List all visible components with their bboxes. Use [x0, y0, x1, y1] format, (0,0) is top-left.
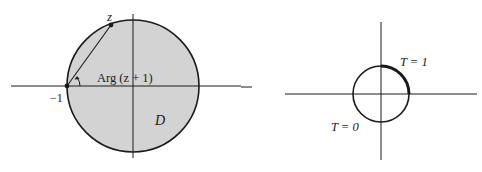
- label-minus-one: −1: [50, 92, 63, 104]
- left-figure: [11, 14, 241, 158]
- right-figure: [241, 22, 477, 160]
- label-arg-z-plus-1: Arg (z + 1): [97, 72, 153, 85]
- point-minus-one: [65, 84, 70, 89]
- thick-arc-t0-to-t1: [381, 66, 409, 94]
- label-region-d: D: [155, 114, 165, 128]
- label-z: z: [107, 10, 112, 23]
- diagram-canvas: [0, 0, 482, 172]
- label-t-equals-1: T = 1: [400, 56, 428, 69]
- label-t-equals-0: T = 0: [331, 121, 359, 134]
